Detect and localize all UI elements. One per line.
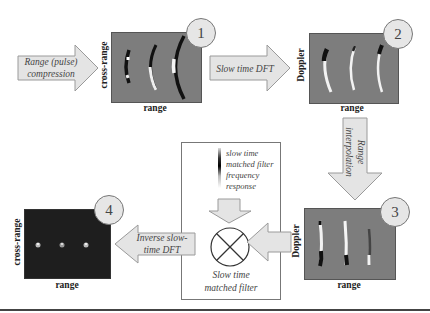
axis-label-range-2: range <box>327 103 377 113</box>
panel-2-image <box>310 34 398 103</box>
filter-response-bar-icon <box>217 148 223 188</box>
legend-line-4: response <box>226 181 273 192</box>
label-line-2: compression <box>18 68 84 80</box>
arrow-filter-down <box>208 198 252 224</box>
axis-label-cross-range-1: cross-range <box>99 35 109 95</box>
label-line-2: interpolation <box>343 117 355 187</box>
panel-2-range-doppler <box>309 33 399 104</box>
legend-line-1: slow time <box>226 148 273 159</box>
legend-line-3: frequency <box>226 170 273 181</box>
label-line-1: Range <box>355 117 367 187</box>
badge-number: 1 <box>197 25 205 42</box>
panel-1-image <box>112 33 201 102</box>
step-badge-3: 3 <box>380 197 410 227</box>
badge-number: 3 <box>391 204 399 221</box>
label-line-1: Inverse slow- <box>128 232 196 244</box>
multiply-icon <box>209 226 251 268</box>
step-badge-4: 4 <box>94 195 124 225</box>
axis-label-range-4: range <box>42 280 92 290</box>
arrow-into-filter <box>246 222 292 262</box>
axis-label-range-3: range <box>324 280 374 290</box>
axis-label-doppler-3: Doppler <box>291 216 301 266</box>
matched-filter-box: slow time matched filter frequency respo… <box>181 142 281 300</box>
arrow-label-range-compression: Range (pulse) compression <box>18 56 84 80</box>
caption-line-2: matched filter <box>182 282 280 295</box>
arrow-label-inverse-dft: Inverse slow- time DFT <box>128 232 196 256</box>
filter-caption: Slow time matched filter <box>182 269 280 295</box>
panel-1-range-compressed <box>111 32 202 103</box>
arrow-label-slow-time-dft: Slow time DFT <box>212 63 278 75</box>
axis-label-cross-range-4: cross-range <box>12 212 22 272</box>
badge-number: 2 <box>394 26 402 43</box>
axis-label-doppler-2: Doppler <box>296 40 306 90</box>
arrow-label-range-interpolation: Range interpolation <box>343 117 367 187</box>
caption-line-1: Slow time <box>182 269 280 282</box>
badge-number: 4 <box>105 202 113 219</box>
legend-line-2: matched filter <box>226 159 273 170</box>
label-line-2: time DFT <box>128 244 196 256</box>
axis-label-range-1: range <box>130 103 180 113</box>
label-line-1: Range (pulse) <box>18 56 84 68</box>
step-badge-2: 2 <box>383 19 413 49</box>
bottom-divider <box>0 309 430 311</box>
filter-legend: slow time matched filter frequency respo… <box>226 148 273 192</box>
